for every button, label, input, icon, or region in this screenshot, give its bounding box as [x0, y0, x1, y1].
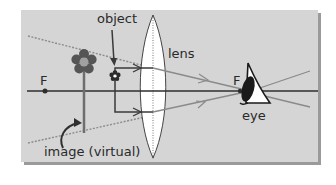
label-focal-right: F: [233, 73, 240, 88]
label-lens: lens: [168, 46, 195, 61]
label-focal-left: F: [40, 73, 47, 88]
panel-background: [21, 10, 318, 162]
label-eye: eye: [242, 108, 266, 123]
optics-diagram: object lens F F eye image (virtual): [0, 0, 336, 185]
label-image: image (virtual): [44, 144, 140, 159]
label-object: object: [97, 11, 137, 26]
focal-point-left: [43, 89, 48, 94]
